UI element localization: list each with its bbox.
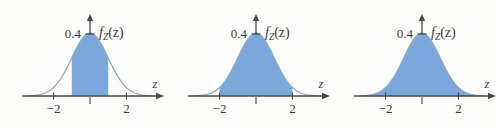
x-tick-label: 2	[123, 101, 130, 116]
x-tick-label: 2	[289, 101, 296, 116]
y-axis-arrow-icon	[419, 14, 425, 21]
density-argument: (z)	[274, 25, 290, 41]
distribution-panel: −220.4fZ(z)z	[332, 0, 498, 128]
shaded-region	[360, 33, 484, 96]
distribution-panel: −220.4fZ(z)z	[0, 0, 166, 128]
distribution-plot: −220.4fZ(z)z	[0, 0, 166, 128]
shaded-region	[72, 33, 108, 96]
density-function-label: fZ(z)	[265, 25, 290, 42]
x-axis-label: z	[152, 77, 158, 91]
y-axis-arrow-icon	[87, 14, 93, 21]
y-axis-arrow-icon	[253, 14, 259, 21]
x-axis-arrow-icon	[322, 93, 330, 99]
shaded-region	[220, 33, 293, 96]
x-tick-label: 2	[455, 101, 462, 116]
x-tick-label: −2	[47, 101, 61, 116]
distribution-panel: −220.4fZ(z)z	[166, 0, 332, 128]
x-tick-label: −2	[379, 101, 393, 116]
distribution-plot: −220.4fZ(z)z	[332, 0, 498, 128]
density-argument: (z)	[440, 25, 456, 41]
y-axis-value-label: 0.4	[231, 26, 248, 41]
x-axis-label: z	[318, 77, 324, 91]
density-argument: (z)	[108, 25, 124, 41]
x-axis-arrow-icon	[156, 93, 164, 99]
x-tick-label: −2	[213, 101, 227, 116]
x-axis-label: z	[484, 77, 490, 91]
density-function-label: fZ(z)	[99, 25, 124, 42]
x-axis-arrow-icon	[488, 93, 496, 99]
normal-distribution-figure: −220.4fZ(z)z−220.4fZ(z)z−220.4fZ(z)z	[0, 0, 499, 128]
density-function-label: fZ(z)	[431, 25, 456, 42]
y-axis-value-label: 0.4	[65, 26, 82, 41]
distribution-plot: −220.4fZ(z)z	[166, 0, 332, 128]
y-axis-value-label: 0.4	[397, 26, 414, 41]
